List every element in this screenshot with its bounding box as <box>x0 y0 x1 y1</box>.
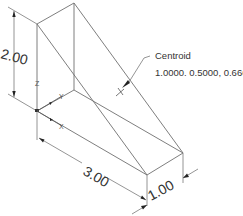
length-arrow-left <box>39 138 45 143</box>
length-dimension-line-left <box>39 138 82 163</box>
edge-bottom-back <box>74 90 183 153</box>
edge-slope-front <box>37 24 147 175</box>
x-axis-label: X <box>59 123 64 130</box>
edge-front-width <box>147 153 183 175</box>
z-axis-label: Z <box>35 80 40 87</box>
height-dimension-label: 2.00 <box>0 45 30 68</box>
length-dimension-label: 3.00 <box>81 163 113 191</box>
height-extension-bottom <box>8 94 37 111</box>
width-arrow-right <box>183 174 189 179</box>
centroid-coordinates: 1.0000. 0.5000, 0.6667 <box>155 67 243 78</box>
width-dimension-label: 1.00 <box>145 177 177 204</box>
isometric-drawing: 2.00 3.00 1.00 Y X Z Centroid 1.0000. 0.… <box>0 0 243 216</box>
height-arrow-top <box>12 11 15 17</box>
edge-slope-back <box>74 3 183 153</box>
centroid-leader-arrow <box>122 80 130 88</box>
length-dimension-line-right <box>104 176 146 200</box>
height-extension-top <box>8 7 37 24</box>
centroid-leader-line <box>129 56 150 82</box>
height-arrow-bottom <box>12 91 15 97</box>
edge-top-back <box>37 3 74 24</box>
centroid-label: Centroid <box>155 50 191 61</box>
length-arrow-right <box>141 196 147 201</box>
width-arrow-left <box>141 205 147 210</box>
y-axis-label: Y <box>59 93 64 100</box>
